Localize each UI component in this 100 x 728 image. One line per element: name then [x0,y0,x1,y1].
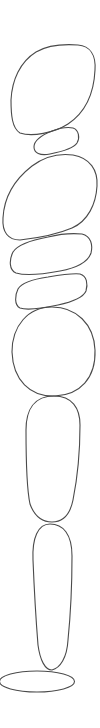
stone-6-shape [12,307,95,396]
stone-3-shape [3,154,97,240]
stacked-stones-illustration: Stacked stones line drawing [0,0,100,728]
base-ellipse [0,671,75,692]
stone-2-shape [34,128,79,155]
stone-1-shape [11,45,95,135]
stone-8-shape [33,524,72,670]
stones-drawing [0,0,100,728]
stone-7-shape [26,396,80,522]
stone-5-shape [16,274,87,310]
